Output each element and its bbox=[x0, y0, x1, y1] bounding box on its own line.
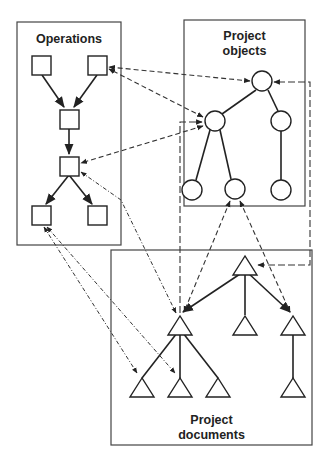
link-operations-documents bbox=[81, 172, 176, 313]
link-operations-documents bbox=[44, 227, 137, 373]
object-node[interactable] bbox=[225, 179, 245, 199]
document-node[interactable] bbox=[281, 378, 305, 397]
object-node[interactable] bbox=[271, 111, 291, 131]
operations-title-text: Operations bbox=[36, 32, 102, 46]
link-objects-operations bbox=[81, 126, 203, 163]
object-node[interactable] bbox=[205, 111, 225, 131]
project-documents-title-line1: Project bbox=[111, 413, 312, 428]
document-node[interactable] bbox=[168, 378, 192, 397]
operations-edges bbox=[42, 75, 97, 204]
project-documents-title: Project documents bbox=[111, 413, 312, 443]
objects-edges bbox=[196, 90, 281, 180]
operation-node[interactable] bbox=[32, 206, 51, 225]
document-node[interactable] bbox=[233, 256, 257, 275]
project-objects-title-line1: Project bbox=[184, 29, 305, 44]
object-node[interactable] bbox=[252, 71, 272, 91]
project-documents-title-line2: documents bbox=[111, 428, 312, 443]
document-node[interactable] bbox=[130, 378, 154, 397]
objects-nodes bbox=[182, 71, 291, 200]
operation-node[interactable] bbox=[60, 110, 79, 129]
document-node[interactable] bbox=[233, 316, 257, 335]
project-objects-title-line2: objects bbox=[184, 44, 305, 59]
project-objects-title: Project objects bbox=[184, 29, 305, 59]
diagram-canvas bbox=[0, 0, 330, 460]
link-documents-objects bbox=[180, 122, 202, 313]
link-objects-documents bbox=[240, 201, 290, 312]
object-node[interactable] bbox=[182, 180, 202, 200]
document-node[interactable] bbox=[168, 316, 192, 335]
operation-node[interactable] bbox=[88, 206, 107, 225]
link-objects-operations bbox=[109, 67, 250, 81]
operation-node[interactable] bbox=[60, 157, 79, 176]
documents-edges bbox=[142, 272, 293, 378]
operations-title: Operations bbox=[17, 32, 121, 47]
operation-node[interactable] bbox=[32, 56, 51, 75]
link-documents-objects bbox=[258, 82, 310, 265]
object-node[interactable] bbox=[271, 180, 291, 200]
operation-node[interactable] bbox=[88, 56, 107, 75]
link-objects-operations bbox=[109, 69, 203, 117]
document-node[interactable] bbox=[206, 378, 230, 397]
documents-nodes bbox=[130, 256, 305, 397]
document-node[interactable] bbox=[281, 316, 305, 335]
